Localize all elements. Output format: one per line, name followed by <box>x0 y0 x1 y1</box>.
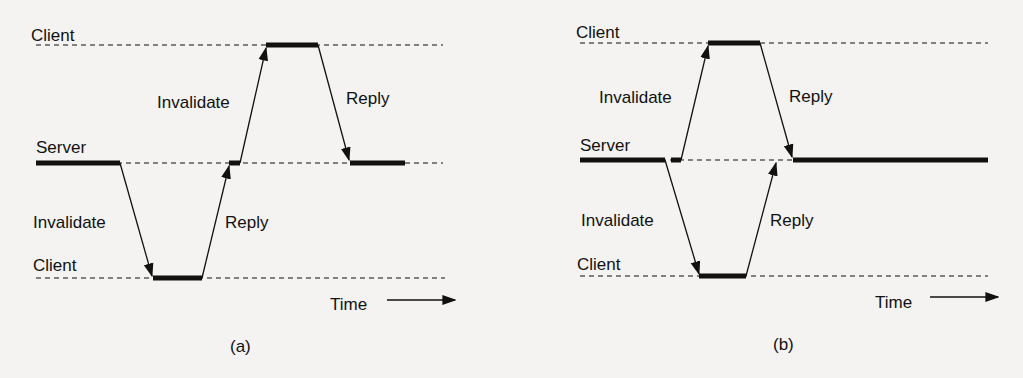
diagram-a <box>36 45 455 300</box>
invalidate-up-label: Invalidate <box>599 89 672 106</box>
caption-a: (a) <box>230 338 251 355</box>
invalidate-down-label: Invalidate <box>33 214 106 231</box>
reply-up-label: Reply <box>770 212 813 229</box>
invalidate-down-label: Invalidate <box>581 212 654 229</box>
client-bottom-label: Client <box>33 257 76 274</box>
invalidate-down-arrow <box>120 163 152 276</box>
client-top-label: Client <box>31 27 74 44</box>
timing-diagrams <box>0 0 1023 378</box>
server-label: Server <box>36 139 86 156</box>
caption-b: (b) <box>773 336 794 353</box>
reply-up-label: Reply <box>225 214 268 231</box>
figure: Client Server Client Invalidate Reply In… <box>0 0 1023 378</box>
time-label: Time <box>330 296 367 313</box>
time-label: Time <box>875 294 912 311</box>
invalidate-up-arrow <box>240 48 266 163</box>
reply-down-arrow <box>318 45 349 160</box>
reply-down-label: Reply <box>346 90 389 107</box>
invalidate-down-arrow <box>665 160 699 274</box>
reply-down-label: Reply <box>789 88 832 105</box>
invalidate-up-arrow <box>681 46 708 160</box>
server-label: Server <box>580 137 630 154</box>
diagram-b <box>580 43 998 297</box>
invalidate-up-label: Invalidate <box>157 94 230 111</box>
client-bottom-label: Client <box>577 256 620 273</box>
reply-down-arrow <box>760 43 792 157</box>
client-top-label: Client <box>576 24 619 41</box>
